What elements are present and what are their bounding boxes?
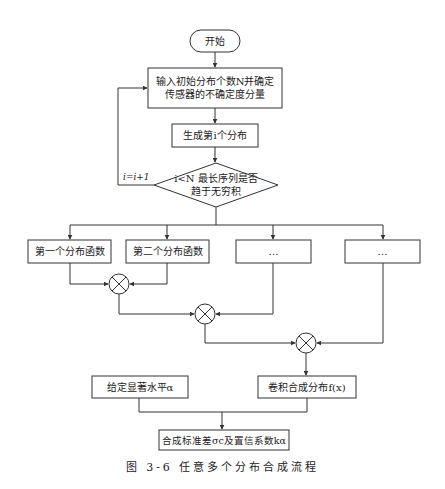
branch-label-1: 第一个分布函数: [28, 240, 111, 263]
branch-label-4: …: [345, 240, 420, 263]
input-label: 输入初始分布个数N并确定 传感器的不确定度分量: [148, 68, 282, 108]
input-label-line1: 输入初始分布个数N并确定: [156, 75, 275, 88]
loop-label: i=i+1: [123, 172, 150, 182]
convolution-result-label: 卷积合成分布f(x): [258, 376, 356, 398]
input-label-line2: 传感器的不确定度分量: [165, 88, 265, 101]
decision-label-line2: 趋于无穷积: [191, 185, 241, 198]
generate-label: 生成第i个分布: [172, 124, 258, 147]
branch-label-2: 第二个分布函数: [126, 240, 209, 263]
decision-label: i<N 最长序列是否 趋于无穷积: [164, 168, 268, 202]
branch-label-3: …: [236, 240, 311, 263]
significance-label: 给定显著水平α: [92, 376, 188, 398]
output-label: 合成标准差σc及置信系数kα: [159, 430, 289, 450]
figure-caption: 图 3-6 任意多个分布合成流程: [0, 458, 445, 474]
start-label: 开始: [190, 30, 240, 52]
decision-label-line1: i<N 最长序列是否: [174, 172, 258, 185]
